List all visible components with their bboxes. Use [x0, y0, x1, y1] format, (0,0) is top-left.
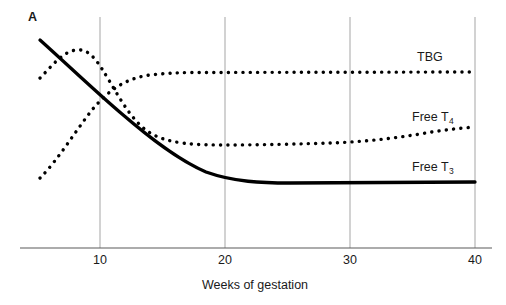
- series-label-tbg: TBG: [417, 51, 443, 64]
- series-label-tbg-text: TBG: [417, 50, 443, 64]
- x-tick-label-20: 20: [218, 254, 232, 267]
- x-tick-label-10: 10: [93, 254, 107, 267]
- x-tick-label-30: 30: [343, 254, 357, 267]
- series-label-free-t3: Free T3: [412, 161, 453, 174]
- x-axis-title: Weeks of gestation: [202, 279, 308, 292]
- chart-figure: A TBG Free T4 Free T3 10 20 30 40 Weeks …: [0, 0, 506, 305]
- chart-plot-area: [0, 0, 506, 305]
- series-label-free-t4-subscript: 4: [449, 116, 454, 126]
- series-label-free-t3-text: Free T: [412, 160, 449, 174]
- series-line-free-t3: [40, 40, 475, 183]
- series-label-free-t4: Free T4: [412, 111, 453, 124]
- series-line-tbg: [40, 72, 475, 178]
- x-tick-label-40: 40: [468, 254, 482, 267]
- panel-letter: A: [28, 11, 37, 24]
- series-label-free-t3-subscript: 3: [449, 166, 454, 176]
- series-label-free-t4-text: Free T: [412, 110, 449, 124]
